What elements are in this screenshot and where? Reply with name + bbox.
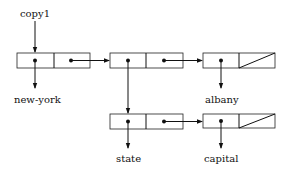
atom-capital: capital [204, 153, 238, 164]
cons-cell-diagram: copy1 new-york albany state [0, 0, 292, 173]
atom-albany: albany [205, 94, 239, 105]
atom-new-york: new-york [14, 94, 62, 105]
cons-cell-3 [203, 53, 275, 68]
cons-cell-5 [203, 114, 275, 128]
variable-label-copy1: copy1 [20, 8, 50, 19]
atom-state: state [116, 153, 141, 164]
